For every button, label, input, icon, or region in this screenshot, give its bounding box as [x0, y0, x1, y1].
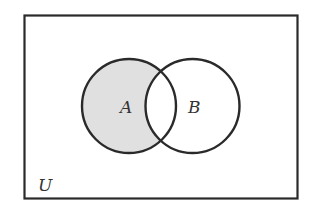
set-b-label: B [187, 97, 201, 117]
set-a-label: A [118, 97, 132, 117]
universe-label: U [38, 175, 53, 195]
venn-diagram: A B U [0, 0, 314, 212]
